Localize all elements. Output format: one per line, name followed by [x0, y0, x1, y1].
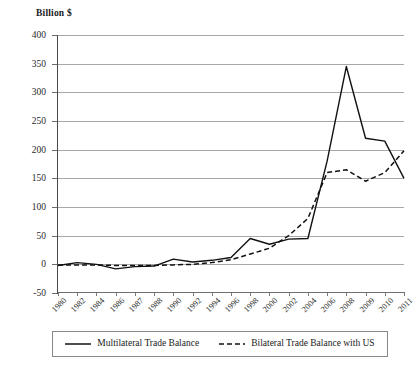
gridline: [58, 264, 404, 265]
x-axis-tick-mark: [135, 293, 136, 296]
x-axis-tick-label: 1980: [50, 296, 68, 314]
series-line-multilateral: [58, 67, 404, 269]
gridline: [58, 64, 404, 65]
y-axis-title: Billion $: [36, 8, 72, 18]
gridline: [58, 121, 404, 122]
x-axis-tick-mark: [385, 293, 386, 296]
x-axis-tick-label: 2002: [281, 296, 299, 314]
x-axis-tick-label: 2006: [319, 296, 337, 314]
x-axis-tick-mark: [327, 293, 328, 296]
gridline: [58, 178, 404, 179]
x-axis-tick-mark: [308, 293, 309, 296]
x-axis-tick-label: 2010: [377, 296, 395, 314]
x-axis-tick-mark: [212, 293, 213, 296]
legend-entry: Multilateral Trade Balance: [65, 339, 199, 349]
x-axis-tick-mark: [231, 293, 232, 296]
x-axis-tick-label: 1994: [204, 296, 222, 314]
x-axis-tick-label: 1990: [165, 296, 183, 314]
y-axis-tick-label: 100: [6, 202, 46, 212]
y-axis-tick-label: 50: [6, 231, 46, 241]
x-axis-tick-mark: [77, 293, 78, 296]
x-axis-tick-label: 1996: [223, 296, 241, 314]
x-axis-tick-label: 1988: [146, 296, 164, 314]
y-axis-tick-label: 250: [6, 116, 46, 126]
x-axis-tick-mark: [289, 293, 290, 296]
x-axis-tick-label: 1984: [89, 296, 107, 314]
legend-label: Multilateral Trade Balance: [97, 339, 199, 349]
x-axis-tick-label: 1998: [242, 296, 260, 314]
x-axis-tick-mark: [58, 293, 59, 296]
x-axis-tick-mark: [116, 293, 117, 296]
legend-entry: Bilateral Trade Balance with US: [219, 339, 374, 349]
y-axis-tick-label: 0: [6, 259, 46, 269]
gridline: [58, 236, 404, 237]
x-axis-tick-label: 1982: [69, 296, 87, 314]
y-axis-tick-label: 200: [6, 145, 46, 155]
gridline: [58, 35, 404, 36]
x-axis-tick-mark: [173, 293, 174, 296]
x-axis-tick-mark: [96, 293, 97, 296]
x-axis-tick-mark: [404, 293, 405, 296]
x-axis-tick-mark: [250, 293, 251, 296]
y-axis-tick-label: -50: [6, 288, 46, 298]
gridline: [58, 207, 404, 208]
x-axis-tick-mark: [269, 293, 270, 296]
x-axis-tick-label: 2011: [396, 296, 414, 314]
y-axis-tick-label: 400: [6, 30, 46, 40]
x-axis-tick-mark: [193, 293, 194, 296]
y-axis-tick-label: 150: [6, 173, 46, 183]
legend-label: Bilateral Trade Balance with US: [251, 339, 374, 349]
x-axis-tick-label: 2009: [358, 296, 376, 314]
gridline: [58, 150, 404, 151]
x-axis-tick-label: 1986: [108, 296, 126, 314]
x-axis-tick-mark: [346, 293, 347, 296]
legend-solid-line-icon: [65, 340, 91, 348]
x-axis-tick-label: 1992: [185, 296, 203, 314]
chart-legend: Multilateral Trade BalanceBilateral Trad…: [52, 331, 388, 357]
x-axis-tick-label: 1987: [127, 296, 145, 314]
x-axis-tick-label: 2004: [300, 296, 318, 314]
legend-dashed-line-icon: [219, 340, 245, 348]
series-line-bilateral: [58, 151, 404, 266]
x-axis-tick-label: 2000: [262, 296, 280, 314]
y-axis-tick-label: 350: [6, 59, 46, 69]
y-axis-line: [57, 35, 58, 294]
gridline: [58, 92, 404, 93]
x-axis-tick-mark: [366, 293, 367, 296]
x-axis-tick-mark: [154, 293, 155, 296]
x-axis-tick-label: 2008: [338, 296, 356, 314]
y-axis-tick-label: 300: [6, 87, 46, 97]
